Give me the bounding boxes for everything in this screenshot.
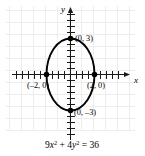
- ellipse-graph-figure: y x (0, 3) (2, 0) (–2, 0) (0, –3) 9x2 + …: [0, 0, 145, 156]
- eq-plus: +: [57, 140, 67, 150]
- vertex-right-dot: [92, 72, 98, 78]
- svg-text:9x2 + 4y2 = 36: 9x2 + 4y2 = 36: [45, 139, 99, 151]
- equation-caption: 9x2 + 4y2 = 36: [45, 139, 99, 151]
- axes: [12, 9, 128, 140]
- vertex-top-dot: [68, 36, 74, 42]
- point-label-left: (–2, 0): [27, 81, 49, 90]
- y-axis-label: y: [60, 4, 65, 14]
- eq-equals: =: [79, 140, 89, 150]
- point-label-top: (0, 3): [75, 34, 93, 43]
- vertex-left-dot: [44, 72, 50, 78]
- point-label-bottom: (0, –3): [74, 108, 96, 117]
- vertex-bottom-dot: [68, 108, 74, 114]
- point-label-right: (2, 0): [87, 81, 105, 90]
- eq-rhs: 36: [89, 140, 99, 150]
- x-axis-label: x: [133, 75, 138, 85]
- coordinate-plane-svg: y x (0, 3) (2, 0) (–2, 0) (0, –3) 9x2 + …: [0, 0, 145, 156]
